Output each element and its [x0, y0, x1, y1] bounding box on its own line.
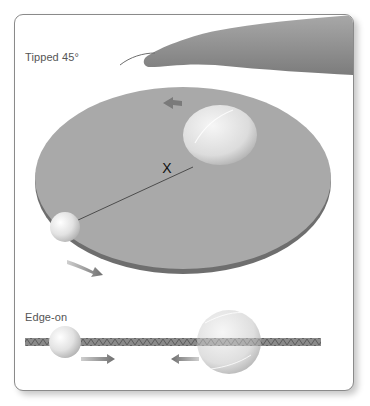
- figure-card: X Tipped 45° Edge-on: [14, 14, 354, 391]
- hand-illustration: [120, 15, 353, 75]
- tipped-disk: [35, 87, 331, 274]
- center-of-mass-marker: X: [162, 160, 172, 176]
- motion-arrow-small-ball: [67, 260, 103, 277]
- diagram-canvas: X: [15, 15, 353, 390]
- small-ball: [50, 212, 80, 242]
- panel-label-tipped: Tipped 45°: [25, 51, 79, 63]
- edge-on-arrow-left: [171, 354, 199, 364]
- large-ball: [183, 105, 257, 165]
- panel-label-edge-on: Edge-on: [25, 311, 67, 323]
- edge-on-large-ball: [197, 310, 261, 374]
- edge-on-arrow-right: [81, 354, 115, 364]
- edge-on-small-ball: [49, 326, 81, 358]
